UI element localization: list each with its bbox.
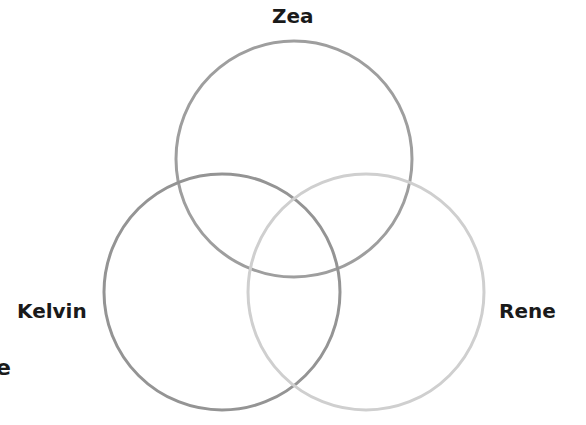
venn-diagram — [0, 0, 586, 425]
circle-kelvin — [104, 174, 340, 410]
circle-rene — [248, 174, 484, 410]
label-rene: Rene — [499, 299, 556, 323]
label-kelvin: Kelvin — [17, 299, 87, 323]
cut-off-text-fragment: e — [0, 355, 11, 380]
label-zea: Zea — [272, 4, 314, 28]
circle-zea — [176, 41, 412, 277]
